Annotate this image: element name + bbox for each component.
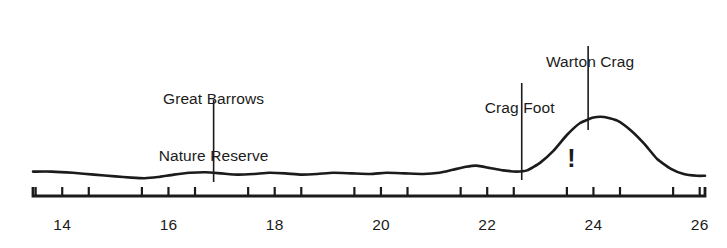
annotation-label-warton-crag: Warton Crag [546, 14, 634, 109]
x-axis-tick-label: 20 [361, 216, 401, 234]
terrain-profile-curve [33, 117, 705, 178]
x-axis-tick-label: 26 [680, 216, 720, 234]
x-axis-tick-label: 16 [149, 216, 189, 234]
exclamation-marker: ! [567, 146, 575, 171]
annotation-label-great-barrows: Great Barrows Nature Reserve [159, 51, 269, 203]
annotation-label-line1: Crag Foot [485, 98, 555, 117]
annotation-label-line2: Nature Reserve [159, 146, 269, 165]
annotation-label-line1: Great Barrows [159, 89, 269, 108]
x-axis-tick-label: 14 [42, 216, 82, 234]
annotation-label-line1: Warton Crag [546, 52, 634, 71]
x-axis-tick-label: 18 [255, 216, 295, 234]
annotation-label-crag-foot: Crag Foot [485, 60, 555, 155]
terrain-profile-figure: Great Barrows Nature Reserve Crag Foot W… [0, 0, 727, 248]
x-axis-tick-label: 22 [467, 216, 507, 234]
x-axis-ticks [36, 187, 700, 195]
x-axis-line [33, 187, 705, 196]
x-axis-tick-label: 24 [573, 216, 613, 234]
